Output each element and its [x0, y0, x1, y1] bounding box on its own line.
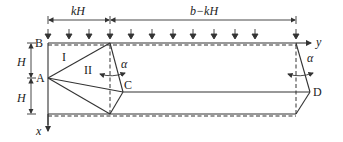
- point-B: B: [35, 36, 43, 50]
- region-II: II: [84, 63, 92, 77]
- point-C: C: [124, 78, 132, 92]
- label-H-lower: H: [16, 91, 27, 105]
- point-A: A: [36, 71, 45, 85]
- axis-y-label: y: [315, 35, 322, 49]
- yield-lines: [48, 43, 310, 114]
- left-dimension: H H: [16, 43, 36, 114]
- mechanism-diagram: kH b−kH: [0, 0, 343, 142]
- label-kH: kH: [71, 4, 86, 18]
- distributed-load-arrows: [45, 29, 299, 39]
- label-H-upper: H: [16, 55, 27, 69]
- axis-x-label: x: [35, 124, 42, 138]
- label-b-minus-kH: b−kH: [190, 4, 219, 18]
- angle-alpha-right: α: [307, 51, 314, 65]
- angle-alpha-left: α: [121, 57, 128, 71]
- rotation-arcs: [100, 73, 313, 76]
- region-I: I: [62, 50, 66, 64]
- point-D: D: [313, 85, 322, 99]
- top-dimension: kH b−kH: [48, 4, 296, 24]
